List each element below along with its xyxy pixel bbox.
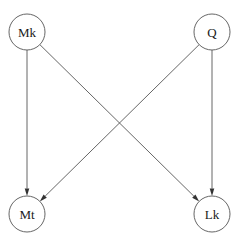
node-label: Mk <box>18 25 37 40</box>
graph-node-mt[interactable]: Mt <box>9 196 45 232</box>
node-label: Q <box>207 25 217 40</box>
edge-line <box>40 45 194 197</box>
node-label: Mt <box>19 207 35 222</box>
diagram-canvas: MkQMtLk <box>0 0 240 245</box>
graph-edge-q-to-lk <box>210 50 215 196</box>
graph-edge-mk-to-mt <box>25 50 30 196</box>
arrow-head-icon <box>210 189 215 197</box>
node-label: Lk <box>205 207 220 222</box>
edge-line <box>45 45 199 197</box>
graph-node-q[interactable]: Q <box>194 14 230 50</box>
graph-svg: MkQMtLk <box>0 0 240 245</box>
graph-node-lk[interactable]: Lk <box>194 196 230 232</box>
arrow-head-icon <box>25 189 30 197</box>
edges-layer <box>25 45 215 202</box>
graph-node-mk[interactable]: Mk <box>9 14 45 50</box>
